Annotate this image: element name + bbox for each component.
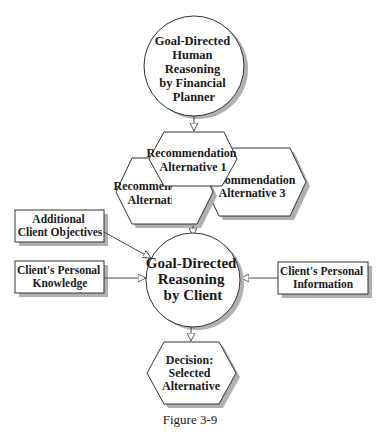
input-additional-objectives: Additional Client Objectives [15, 210, 108, 246]
knowledge-line-1: Client's Personal [17, 264, 100, 276]
decision-line-3: Alternative [162, 379, 221, 393]
input-personal-information: Client's Personal Information [278, 262, 372, 298]
objectives-line-1: Additional [32, 213, 84, 225]
objectives-line-2: Client Objectives [18, 226, 103, 239]
planner-line-4: by Financial [159, 76, 226, 90]
alt1-line-1: Recommendation [147, 146, 237, 160]
figure-caption: Figure 3-9 [163, 412, 218, 427]
information-line-1: Client's Personal [280, 265, 363, 277]
alternative-1-node: Recommendation Alternative 1 [147, 132, 240, 186]
client-reasoning-node: Goal-Directed Reasoning by Client [146, 233, 244, 330]
svg-text:Decision: Selected: Decision: Selected Alternative [162, 353, 221, 393]
planner-line-3: Reasoning [165, 62, 221, 76]
planner-line-5: Planner [173, 90, 216, 104]
alt3-line-2: Alternative 3 [219, 186, 286, 200]
diagram-canvas: Goal-Directed Human Reasoning by Financi… [0, 0, 387, 432]
information-line-2: Information [293, 278, 354, 290]
knowledge-line-2: Knowledge [33, 277, 88, 290]
client-line-3: by Client [164, 287, 223, 303]
svg-text:Recommendation Alternati: Recommendation Alternative 1 [147, 146, 240, 174]
decision-node: Decision: Selected Alternative [147, 342, 240, 408]
decision-line-2: Selected [169, 366, 211, 380]
input-personal-knowledge: Client's Personal Knowledge [15, 261, 108, 297]
planner-reasoning-node: Goal-Directed Human Reasoning by Financi… [144, 16, 248, 119]
alt1-line-2: Alternative 1 [160, 160, 227, 174]
client-line-2: Reasoning [158, 271, 225, 287]
decision-line-1: Decision: [166, 353, 213, 367]
planner-line-2: Human [172, 48, 212, 62]
client-line-1: Goal-Directed [146, 255, 237, 271]
arrow-objectives-to-client [104, 232, 151, 258]
planner-line-1: Goal-Directed [155, 34, 230, 48]
